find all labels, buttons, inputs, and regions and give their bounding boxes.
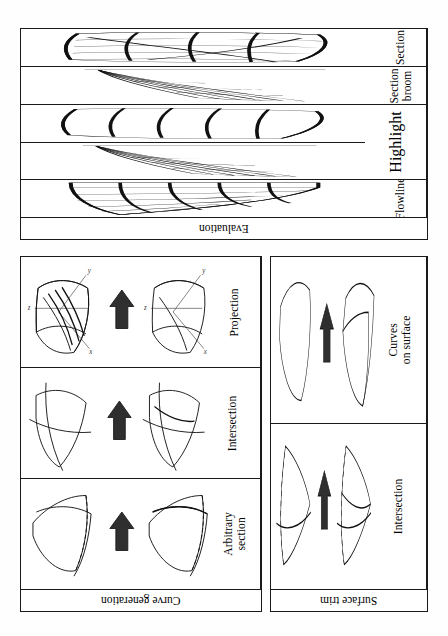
label-flowline: Flowline: [375, 180, 427, 217]
art-curves-on-surface: [271, 257, 375, 423]
axis-label-x: x: [203, 348, 208, 356]
art-section-grid-surface: [21, 29, 375, 66]
axis-label-x: x: [88, 348, 93, 356]
label-arbitrary-section: Arbitrary section: [209, 479, 261, 589]
figure-canvas: Section: [0, 0, 448, 636]
art-highlight-strips: [21, 105, 365, 143]
label-intersection-curve: Intersection: [205, 368, 261, 478]
row-projection: z y x: [21, 257, 261, 368]
row-highlight: Highlight: [21, 105, 427, 180]
row-arbitrary-section: Arbitrary section: [21, 479, 261, 589]
row-flowline: Flowline: [21, 180, 427, 217]
transform-arrow: [108, 401, 131, 440]
label-curves-on-surface: Curves on surface: [375, 257, 427, 423]
label-section: Section: [375, 29, 427, 66]
group-curve-generation: z y x: [20, 256, 262, 612]
group-caption-evaluation: Evaluation: [21, 217, 427, 239]
group-evaluation: Section: [20, 28, 428, 240]
art-highlight-broom: [21, 143, 365, 180]
art-flowline-grid: [21, 180, 375, 217]
evaluation-rows: Section: [21, 29, 427, 217]
row-intersection-curve: Intersection: [21, 368, 261, 479]
surface-trim-rows: Curves on surface: [271, 257, 427, 589]
art-section-broom: [21, 67, 375, 104]
art-intersection-trim: [271, 424, 371, 590]
label-projection: Projection: [209, 257, 261, 367]
curve-generation-rows: z y x: [21, 257, 261, 589]
axis-label-z: z: [27, 304, 31, 312]
axis-label-z: z: [143, 304, 147, 312]
transform-arrow: [110, 512, 134, 551]
group-surface-trim: Curves on surface: [270, 256, 428, 612]
label-highlight: Highlight: [365, 105, 427, 179]
transform-arrow: [318, 470, 331, 528]
art-intersection-curve: [21, 368, 205, 478]
art-arbitrary-section: [21, 479, 209, 589]
transform-arrow: [320, 304, 333, 362]
axis-label-y: y: [87, 267, 92, 275]
row-section: Section: [21, 29, 427, 67]
label-section-broom: Section broom: [375, 67, 427, 104]
row-section-broom: Section broom: [21, 67, 427, 105]
row-intersection-trim: Intersection: [271, 424, 427, 590]
transform-arrow: [110, 290, 134, 329]
axis-label-y: y: [201, 267, 206, 275]
row-curves-on-surface: Curves on surface: [271, 257, 427, 424]
art-projection: z y x: [21, 257, 209, 367]
group-caption-curve-generation: Curve generation: [21, 589, 261, 611]
group-caption-surface-trim: Surface trim: [271, 589, 427, 611]
label-intersection-trim: Intersection: [371, 424, 427, 590]
